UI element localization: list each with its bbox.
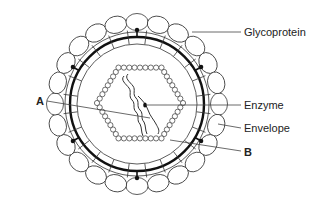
capsomere-bead	[154, 65, 159, 70]
glycoprotein-ellipse	[47, 112, 69, 138]
label-envelope: Envelope	[244, 122, 290, 134]
capsomere-bead	[132, 136, 137, 141]
capsomere-bead	[137, 65, 142, 70]
glycoprotein-ellipse	[103, 14, 129, 36]
label-a: A	[36, 95, 44, 107]
capsomere-bead	[127, 65, 132, 70]
capsomere-bead	[127, 136, 132, 141]
capsomere-bead	[143, 65, 148, 70]
glycoprotein-knob	[199, 139, 203, 143]
glycoprotein-knob	[71, 139, 75, 143]
glycoprotein-knob	[135, 176, 139, 180]
glycoprotein-ellipse	[145, 14, 171, 36]
label-enzyme: Enzyme	[244, 99, 284, 111]
capsomere-bead	[148, 65, 153, 70]
capsomere-bead	[116, 65, 121, 70]
label-b: B	[244, 146, 252, 158]
glycoprotein-knob	[199, 65, 203, 69]
glycoprotein-knob	[135, 28, 139, 32]
capsomere-bead	[154, 136, 159, 141]
capsomere-bead	[121, 136, 126, 141]
glycoprotein-ellipse	[47, 93, 64, 115]
glycoprotein-ellipse	[47, 70, 69, 96]
capsomere-bead	[132, 65, 137, 70]
glycoprotein-ellipse	[205, 70, 227, 96]
glycoprotein-knob	[71, 65, 75, 69]
capsomere-bead	[148, 136, 153, 141]
virus-diagram: Glycoprotein Enzyme Envelope B A	[0, 0, 314, 206]
capsomere-bead	[143, 136, 148, 141]
label-glycoprotein: Glycoprotein	[244, 26, 306, 38]
capsomere-bead	[159, 136, 164, 141]
glycoprotein-ellipse	[211, 93, 228, 115]
capsomere-bead	[178, 96, 183, 101]
capsomere-bead	[137, 136, 142, 141]
capsomere-bead	[121, 65, 126, 70]
glycoprotein-ellipse	[145, 172, 171, 194]
glycoprotein-ellipse	[103, 172, 129, 194]
